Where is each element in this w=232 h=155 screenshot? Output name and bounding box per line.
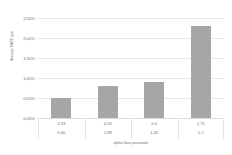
bars-layer [38, 18, 224, 118]
y-tick-label: 2,50% [11, 16, 35, 21]
y-tick-label: 2,00% [11, 36, 35, 41]
bar-chart: Average MAPE gap 2,50% 2,00% 1,50% 1,00%… [0, 0, 232, 155]
x-tick-label-alpha: 1,71 [178, 119, 225, 128]
x-tick-label-alpha: 3,33 [38, 119, 85, 128]
bar-slot [85, 18, 132, 118]
bar-6-6[interactable] [144, 82, 164, 118]
bar-slot [131, 18, 178, 118]
x-tick-group: 3,33 0,40 [38, 119, 85, 137]
y-tick-label: 1,50% [11, 56, 35, 61]
x-tick-group: 1,71 1,7 [178, 119, 225, 137]
x-axis-title: alpha/ beta parameter [38, 141, 224, 145]
x-tick-label-beta: 1,45 [131, 128, 178, 137]
y-axis-tick-labels: 2,50% 2,00% 1,50% 1,00% 0,50% 0,00% [11, 18, 35, 118]
plot-area [38, 18, 224, 118]
bar-4-05[interactable] [98, 86, 118, 118]
y-tick-label: 0,00% [11, 116, 35, 121]
bar-1-71[interactable] [191, 26, 211, 118]
bar-slot [38, 18, 85, 118]
bar-slot [178, 18, 225, 118]
x-tick-group: 6,6 1,45 [131, 119, 178, 137]
x-tick-label-beta: 1,89 [85, 128, 132, 137]
x-axis-tick-labels: 3,33 0,40 4,05 1,89 6,6 1,45 1,71 1,7 [38, 119, 224, 141]
x-tick-label-alpha: 4,05 [85, 119, 132, 128]
bar-3-33[interactable] [51, 98, 71, 118]
x-tick-label-beta: 0,40 [38, 128, 85, 137]
x-tick-group: 4,05 1,89 [85, 119, 132, 137]
x-tick-label-beta: 1,7 [178, 128, 225, 137]
y-tick-label: 1,00% [11, 76, 35, 81]
y-tick-label: 0,50% [11, 96, 35, 101]
x-tick-label-alpha: 6,6 [131, 119, 178, 128]
